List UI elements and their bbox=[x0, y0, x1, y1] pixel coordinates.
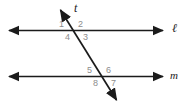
angle-label-6: 6 bbox=[106, 66, 111, 75]
geometry-figure: t ℓ m 1 2 4 3 5 6 8 7 bbox=[0, 0, 188, 110]
transversal-t-segment bbox=[61, 10, 117, 100]
angle-label-1: 1 bbox=[59, 20, 64, 29]
figure-canvas bbox=[0, 0, 188, 110]
line-label-m: m bbox=[170, 70, 178, 81]
line-label-t: t bbox=[74, 3, 77, 14]
line-label-l: ℓ bbox=[172, 23, 177, 34]
angle-label-3: 3 bbox=[83, 33, 88, 42]
angle-label-8: 8 bbox=[93, 79, 98, 88]
angle-label-2: 2 bbox=[78, 20, 83, 29]
angle-label-4: 4 bbox=[65, 33, 70, 42]
angle-label-7: 7 bbox=[111, 79, 116, 88]
angle-label-5: 5 bbox=[87, 66, 92, 75]
